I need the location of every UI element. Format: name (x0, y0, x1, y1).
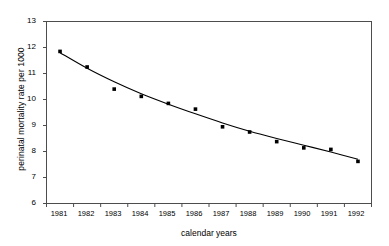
data-point-1988 (248, 130, 252, 134)
data-point-1990 (302, 146, 306, 150)
data-markers (58, 50, 360, 164)
plot-area (0, 0, 389, 246)
data-point-1989 (275, 140, 279, 144)
trend-curve (60, 53, 358, 160)
data-point-1981 (58, 50, 62, 54)
data-point-1991 (329, 148, 333, 152)
data-point-1984 (139, 95, 143, 99)
data-point-1987 (221, 125, 225, 129)
chart-figure: perinatal mortality rate per 1000 calend… (0, 0, 389, 246)
x-tick-marks (47, 204, 372, 208)
data-point-1983 (112, 87, 116, 91)
plot-frame (47, 22, 372, 204)
data-point-1982 (85, 65, 89, 69)
y-tick-marks (43, 22, 47, 204)
data-point-1986 (194, 107, 198, 111)
data-point-1985 (167, 102, 171, 106)
data-point-1992 (356, 160, 360, 164)
